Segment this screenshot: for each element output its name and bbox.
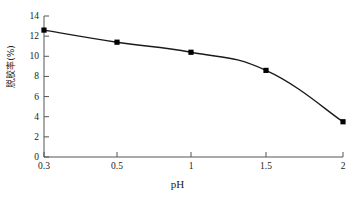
x-axis-ticks [44,152,343,157]
data-point-marker [41,28,46,33]
plot-area [0,0,355,202]
data-point-marker [340,119,345,124]
x-axis-title: pH [0,178,355,190]
y-tick-label: 8 [13,71,39,81]
x-tick-label: 0.3 [24,161,64,171]
y-tick-label: 4 [13,112,39,122]
y-tick-label: 14 [13,11,39,21]
x-tick-label: 1 [171,161,211,171]
y-axis-ticks [44,16,49,157]
y-tick-label: 6 [13,92,39,102]
data-point-marker [114,40,119,45]
data-line [44,30,343,122]
data-markers [41,28,345,125]
data-point-marker [188,50,193,55]
x-tick-label: 0.5 [97,161,137,171]
data-point-marker [263,68,268,73]
x-tick-label: 1.5 [246,161,286,171]
chart-figure: 脱胶率(%) 02468101214 0.30.511.52 pH [0,0,355,202]
y-tick-label: 12 [13,31,39,41]
x-tick-label: 2 [323,161,355,171]
y-tick-label: 10 [13,51,39,61]
y-tick-label: 2 [13,132,39,142]
